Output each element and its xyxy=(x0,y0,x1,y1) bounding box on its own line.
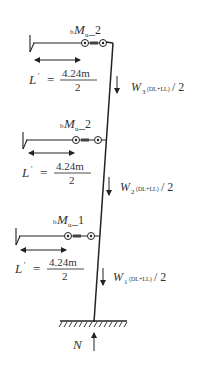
load-suffix: / 2 xyxy=(154,270,166,284)
moment-suffix: _2 xyxy=(88,23,101,37)
length-prime: ' xyxy=(24,261,26,270)
length-denominator: 2 xyxy=(69,174,75,186)
level-3-beam xyxy=(30,35,107,52)
length-prime: ' xyxy=(38,72,40,81)
load-symbol: W xyxy=(120,180,131,194)
load-symbol: W xyxy=(113,270,124,284)
load-index: 2 xyxy=(131,188,135,196)
length-denominator: 2 xyxy=(62,270,68,282)
equals-sign: = xyxy=(47,72,54,87)
length-symbol: L xyxy=(14,261,22,276)
spring-icon xyxy=(73,235,81,238)
length-numerator: 4.24m xyxy=(62,67,90,79)
length-prime: ' xyxy=(31,165,33,174)
level-2-beam xyxy=(23,132,106,149)
frame-diagram: b M u _2 L ' = 4.24m 2 W 3 (DL+LL) / 2 b… xyxy=(0,0,201,370)
load-sub: (DL+LL) xyxy=(136,186,159,193)
length-numerator: 4.24m xyxy=(49,256,77,268)
moment-suffix: _1 xyxy=(71,213,84,227)
length-denominator: 2 xyxy=(75,81,81,93)
length-symbol: L xyxy=(28,72,36,87)
load-sub: (DL+LL) xyxy=(129,276,152,283)
reaction-label: N xyxy=(72,337,83,352)
load-suffix: / 2 xyxy=(172,80,184,94)
spring-icon xyxy=(90,42,98,45)
column-top-cap xyxy=(106,42,113,43)
equals-sign: = xyxy=(33,261,40,276)
load-index: 3 xyxy=(142,88,146,96)
length-numerator: 4.24m xyxy=(56,160,84,172)
load-sub: (DL+LL) xyxy=(147,86,170,93)
spring-icon xyxy=(81,139,89,142)
load-index: 1 xyxy=(124,278,128,286)
load-suffix: / 2 xyxy=(161,180,173,194)
fixed-support-icon xyxy=(59,321,127,327)
level-1-beam xyxy=(16,228,99,245)
moment-suffix: _2 xyxy=(78,117,91,131)
length-symbol: L xyxy=(21,165,29,180)
load-symbol: W xyxy=(131,80,142,94)
equals-sign: = xyxy=(40,165,47,180)
